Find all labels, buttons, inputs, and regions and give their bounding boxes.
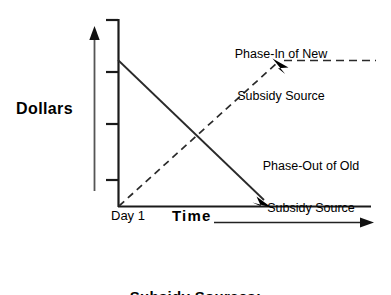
phase-out-annotation-line2: Subsidy Source [238,201,384,215]
figure-container: Dollars Day 1 Time Phase-In of New Subsi… [0,0,391,295]
phase-out-annotation-line1: Phase-Out of Old [238,159,384,173]
phase-in-annotation-line1: Phase-In of New [208,47,354,61]
y-axis-title: Dollars [16,100,73,118]
phase-in-annotation-line2: Subsidy Source [208,89,354,103]
figure-title: Subsidy Sources: Phase-Out Old, Phase-In… [0,249,391,295]
phase-out-annotation: Phase-Out of Old Subsidy Source [238,131,384,243]
figure-title-line1: Subsidy Sources: [0,287,391,295]
phase-in-annotation: Phase-In of New Subsidy Source [208,19,354,131]
y-axis-direction-arrow-head [89,26,99,40]
x-axis-title: Time [172,208,212,225]
x-axis-origin-label: Day 1 [111,209,145,224]
